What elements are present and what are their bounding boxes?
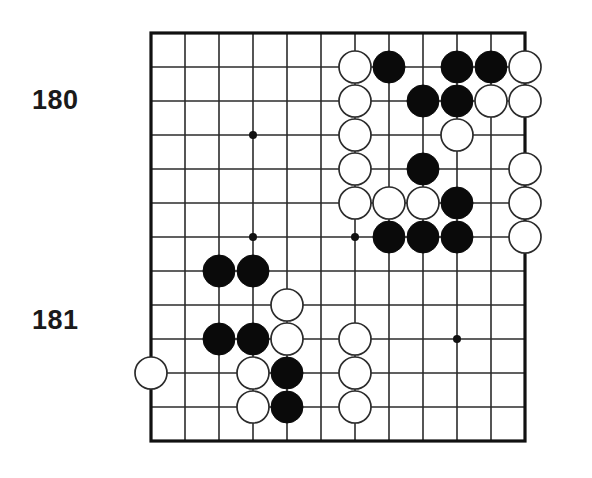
- black-stone: [407, 221, 439, 253]
- black-stone: [407, 85, 439, 117]
- white-stone: [441, 119, 473, 151]
- black-stone: [237, 323, 269, 355]
- black-stone: [441, 51, 473, 83]
- go-diagram-figure: 180 181: [0, 0, 592, 478]
- black-stone: [271, 357, 303, 389]
- white-stone: [339, 51, 371, 83]
- white-stone: [475, 85, 507, 117]
- white-stone: [339, 391, 371, 423]
- white-stone: [373, 187, 405, 219]
- black-stone: [271, 391, 303, 423]
- white-stone: [271, 289, 303, 321]
- white-stone: [237, 391, 269, 423]
- star-point: [351, 233, 359, 241]
- white-stone: [509, 85, 541, 117]
- white-stone: [339, 153, 371, 185]
- black-stone: [441, 187, 473, 219]
- white-stone: [407, 187, 439, 219]
- white-stone: [509, 153, 541, 185]
- white-stone: [339, 187, 371, 219]
- white-stone: [135, 357, 167, 389]
- black-stone: [203, 323, 235, 355]
- white-stone: [237, 357, 269, 389]
- star-point: [249, 131, 257, 139]
- white-stone: [509, 187, 541, 219]
- black-stone: [373, 51, 405, 83]
- black-stone: [475, 51, 507, 83]
- black-stone: [407, 153, 439, 185]
- black-stone: [373, 221, 405, 253]
- star-point: [249, 233, 257, 241]
- white-stone: [339, 119, 371, 151]
- go-board-canvas: [0, 0, 592, 478]
- white-stone: [509, 221, 541, 253]
- star-point: [453, 335, 461, 343]
- black-stone: [237, 255, 269, 287]
- black-stone: [441, 85, 473, 117]
- go-board: [0, 0, 592, 478]
- white-stone: [339, 323, 371, 355]
- black-stone: [441, 221, 473, 253]
- white-stone: [271, 323, 303, 355]
- white-stone: [339, 85, 371, 117]
- white-stone: [339, 357, 371, 389]
- black-stone: [203, 255, 235, 287]
- white-stone: [509, 51, 541, 83]
